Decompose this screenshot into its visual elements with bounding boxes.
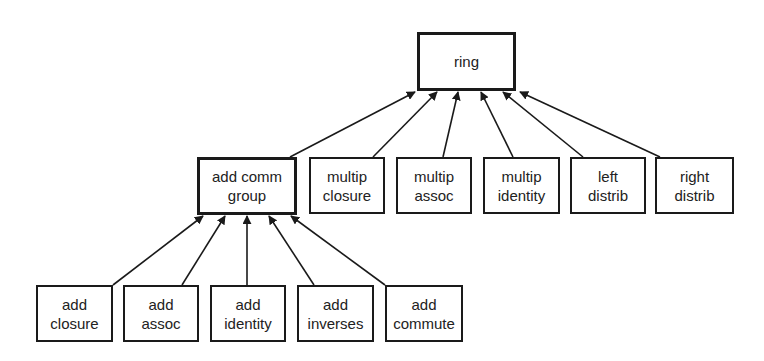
node-label: ring: [454, 52, 479, 71]
node-label: add commute: [393, 295, 455, 333]
node-multip-assoc: multip assoc: [396, 157, 472, 214]
node-left-distrib: left distrib: [570, 157, 646, 214]
arrow-left-distrib-to-ring: [503, 92, 583, 157]
arrow-right-distrib-to-ring: [520, 92, 660, 157]
node-label: add assoc: [141, 295, 180, 333]
arrow-multip-identity-to-ring: [481, 92, 513, 157]
arrow-add-commute-to-add-comm-group: [291, 216, 385, 285]
node-multip-identity: multip identity: [483, 157, 560, 214]
node-add-inverses: add inverses: [297, 285, 374, 342]
node-ring: ring: [417, 32, 516, 91]
node-right-distrib: right distrib: [655, 157, 734, 214]
node-label: multip closure: [323, 167, 371, 205]
arrow-add-closure-to-add-comm-group: [113, 216, 203, 285]
node-add-identity: add identity: [210, 285, 286, 342]
node-label: add inverses: [308, 295, 364, 333]
node-label: add closure: [50, 295, 98, 333]
node-add-closure: add closure: [36, 285, 113, 342]
arrow-multip-assoc-to-ring: [443, 92, 458, 157]
node-label: multip assoc: [414, 167, 454, 205]
node-add-commute: add commute: [385, 285, 463, 342]
arrow-add-inverses-to-add-comm-group: [269, 216, 314, 285]
node-add-assoc: add assoc: [123, 285, 199, 342]
node-label: right distrib: [674, 167, 714, 205]
node-label: multip identity: [498, 167, 546, 205]
hierarchy-diagram: ringadd comm groupmultip closuremultip a…: [0, 0, 764, 361]
node-label: add identity: [224, 295, 272, 333]
node-multip-closure: multip closure: [309, 157, 385, 214]
node-label: add comm group: [212, 167, 282, 205]
node-label: left distrib: [588, 167, 628, 205]
node-add-comm-group: add comm group: [197, 157, 297, 215]
arrow-multip-closure-to-ring: [373, 92, 437, 157]
arrow-add-comm-group-to-ring: [290, 92, 415, 157]
